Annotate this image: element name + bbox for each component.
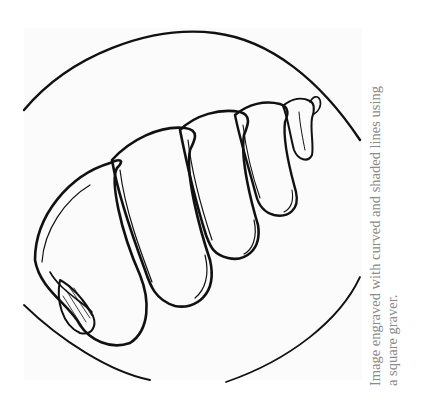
whorl-2 <box>112 128 212 307</box>
caption: Image engraved with curved and shaded li… <box>367 26 401 386</box>
circle-border-right-arc <box>226 277 360 382</box>
caption-line-2: a square graver. <box>384 26 401 386</box>
whorl-1 <box>35 160 147 345</box>
caption-line-1: Image engraved with curved and shaded li… <box>367 26 384 386</box>
shell-engraving-illustration <box>0 0 422 415</box>
whorl-3 <box>180 111 259 259</box>
apex <box>310 97 321 114</box>
circle-border-upper-arc <box>24 32 360 140</box>
